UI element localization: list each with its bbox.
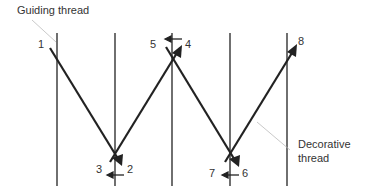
step-number-1: 1 [38, 38, 44, 50]
return-arrow-3-icon [107, 172, 113, 178]
return-arrow-5-icon [165, 36, 171, 42]
step-number-7: 7 [209, 167, 215, 179]
leader-lines [32, 20, 290, 150]
guiding-thread-label: Guiding thread [17, 4, 89, 16]
step-number-5: 5 [150, 38, 156, 50]
arrow-8-icon [287, 44, 297, 57]
step-number-2: 2 [127, 163, 133, 175]
step-number-3: 3 [96, 163, 102, 175]
step-number-4: 4 [185, 38, 191, 50]
segment-3-4 [110, 48, 180, 162]
step-number-6: 6 [242, 167, 248, 179]
decorative-thread-label-line2: thread [298, 152, 329, 164]
return-arrow-7-icon [222, 172, 228, 178]
decorative-thread-label-line1: Decorative [298, 138, 351, 150]
step-number-8: 8 [298, 35, 304, 47]
weaving-diagram: Guiding thread Decorative thread 1 2 3 4… [0, 0, 365, 196]
segment-1-2 [50, 48, 120, 162]
segment-5-6 [166, 47, 236, 162]
arrow-4-icon [172, 45, 182, 58]
arrowheads [112, 44, 297, 167]
